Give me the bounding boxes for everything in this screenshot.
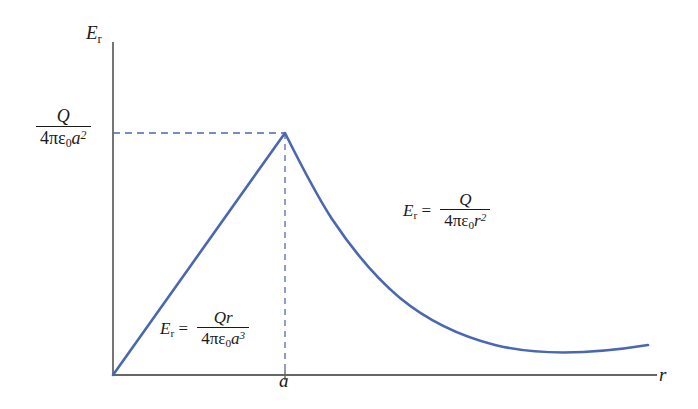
inner-equation-numerator: Qr — [197, 308, 249, 327]
inner-equation-fraction: Qr 4πε0a3 — [197, 308, 249, 350]
outer-equation-equals-sign: = — [421, 201, 431, 220]
inner-equation-denominator-exponent: 3 — [240, 329, 246, 341]
inner-equation-equals-sign: = — [178, 319, 188, 338]
peak-value-denominator-exponent: 2 — [81, 128, 87, 142]
plot-canvas — [0, 0, 698, 409]
outer-equation-lhs-symbol: E — [403, 201, 413, 220]
electric-field-vs-radius-figure: Er r a Q 4πε0a2 Er = Qr 4πε0a3 Er = Q 4π… — [0, 0, 698, 409]
inner-equation-denominator-variable: a — [231, 329, 240, 348]
y-axis-label-subscript: r — [98, 32, 102, 46]
outer-equation-denominator-prefix: 4πε — [444, 211, 468, 230]
outer-equation-numerator: Q — [440, 190, 490, 209]
outer-region-equation: Er = Q 4πε0r2 — [403, 190, 490, 232]
y-axis-label: Er — [86, 22, 102, 47]
inner-region-equation: Er = Qr 4πε0a3 — [160, 308, 249, 350]
inner-equation-denominator-prefix: 4πε — [201, 329, 225, 348]
peak-value-denominator: 4πε0a2 — [36, 126, 91, 151]
peak-value-label: Q 4πε0a2 — [36, 106, 91, 151]
peak-value-denominator-prefix: 4πε — [40, 128, 66, 148]
x-axis-label: r — [659, 364, 666, 386]
outer-equation-fraction: Q 4πε0r2 — [440, 190, 490, 232]
outer-equation-denominator-exponent: 2 — [481, 211, 487, 223]
outer-equation-lhs: Er = — [403, 201, 431, 221]
inner-equation-lhs-subscript: r — [170, 327, 174, 339]
y-axis-label-symbol: E — [86, 22, 98, 43]
outer-equation-denominator: 4πε0r2 — [440, 209, 490, 232]
peak-value-denominator-variable: a — [72, 128, 81, 148]
outer-equation-lhs-subscript: r — [413, 209, 417, 221]
inner-equation-denominator: 4πε0a3 — [197, 327, 249, 350]
inner-equation-lhs-symbol: E — [160, 319, 170, 338]
outer-equation-denominator-variable: r — [474, 211, 481, 230]
x-axis-tick-label-a: a — [279, 370, 289, 392]
peak-value-numerator: Q — [36, 106, 91, 126]
peak-value-fraction: Q 4πε0a2 — [36, 106, 91, 151]
inner-equation-lhs: Er = — [160, 319, 188, 339]
